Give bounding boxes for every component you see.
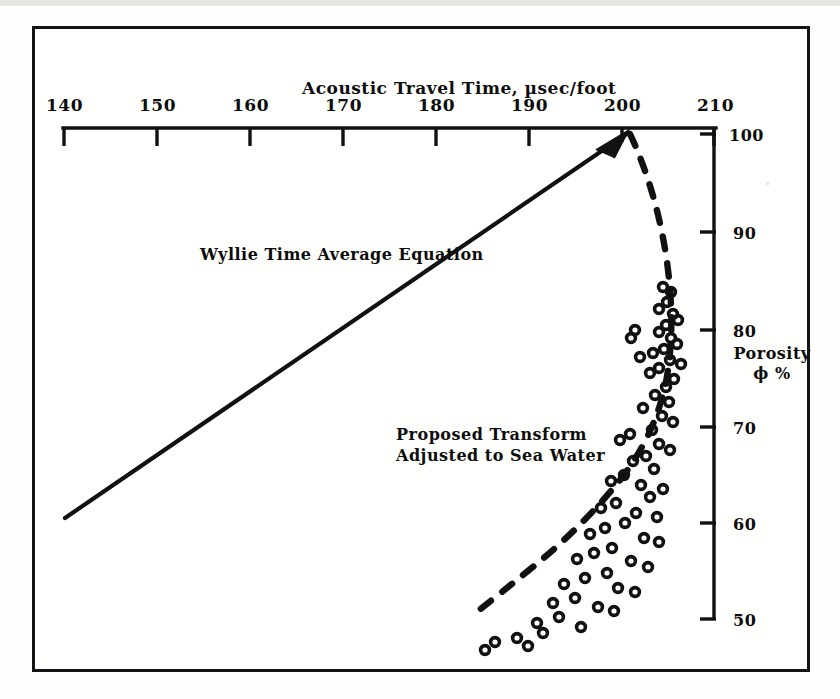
xtick-label-150: 150 — [139, 95, 176, 115]
proposed-transform-annotation-line2: Adjusted to Sea Water — [396, 445, 605, 466]
xtick-label-140: 140 — [46, 95, 83, 115]
right-axis — [700, 130, 716, 620]
ytick-label-60: 60 — [733, 515, 756, 534]
xtick-label-170: 170 — [325, 95, 362, 115]
ytick-label-70: 70 — [733, 419, 756, 438]
ytick-label-80: 80 — [733, 322, 756, 341]
right-axis-title: Porosity ϕ % — [722, 344, 822, 384]
right-axis-title-line1: Porosity — [722, 344, 822, 364]
ytick-label-90: 90 — [733, 224, 756, 243]
proposed-transform-annotation-line1: Proposed Transform — [396, 424, 605, 445]
xtick-label-210: 210 — [697, 95, 734, 115]
proposed-transform-annotation: Proposed Transform Adjusted to Sea Water — [396, 424, 605, 466]
figure-page: Acoustic Travel Time, µsec/foot 140 150 … — [0, 0, 840, 699]
xtick-label-200: 200 — [604, 95, 641, 115]
scatter-points — [481, 283, 686, 655]
right-axis-title-line2: ϕ % — [722, 364, 822, 384]
ytick-label-100: 100 — [729, 126, 764, 145]
xtick-label-190: 190 — [511, 95, 548, 115]
ytick-label-50: 50 — [733, 611, 756, 630]
xtick-label-180: 180 — [418, 95, 455, 115]
xtick-label-160: 160 — [232, 95, 269, 115]
scan-speck — [766, 182, 769, 185]
wyllie-annotation: Wyllie Time Average Equation — [200, 244, 484, 265]
